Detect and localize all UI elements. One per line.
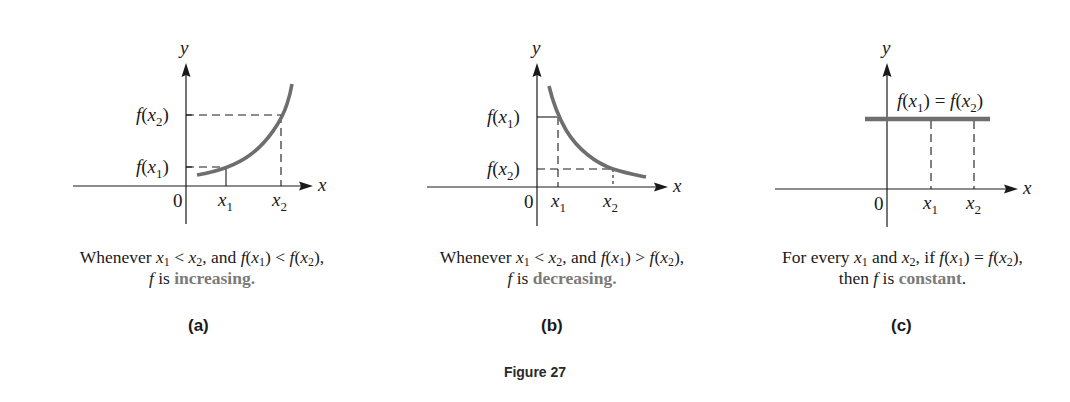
panel-a-y-arrow-icon bbox=[182, 63, 191, 77]
panel-b-caption-line2: f is decreasing. bbox=[382, 268, 742, 289]
panel-b-graph: y x 0 x1 x2 f(x1) f(x2) bbox=[427, 37, 682, 226]
panel-b-y-axis-label: y bbox=[530, 37, 541, 58]
panel-c-origin-label: 0 bbox=[874, 193, 884, 214]
panel-a-x2-label: x2 bbox=[271, 189, 287, 214]
panel-b-x-axis-label: x bbox=[672, 175, 682, 196]
panel-b-x2-label: x2 bbox=[602, 190, 618, 215]
keyword-increasing: increasing bbox=[174, 268, 251, 288]
panel-b-y-arrow-icon bbox=[533, 63, 542, 77]
panel-c-x-axis-label: x bbox=[1022, 177, 1032, 198]
panel-b-caption: Whenever x1 < x2, and f(x1) > f(x2), f i… bbox=[382, 247, 742, 289]
panel-c-caption-line2: then f is constant. bbox=[735, 268, 1070, 289]
panel-a-caption-line2: f is increasing. bbox=[22, 268, 382, 289]
keyword-constant: constant bbox=[899, 268, 962, 288]
panel-b-origin-label: 0 bbox=[524, 191, 534, 212]
panel-b-fx2-label: f(x2) bbox=[487, 158, 520, 183]
panel-b-decreasing-curve bbox=[549, 86, 646, 177]
panel-b-label: (b) bbox=[541, 316, 563, 336]
panel-a-x-arrow-icon bbox=[299, 182, 313, 191]
panel-c-x-arrow-icon bbox=[1004, 185, 1018, 194]
panel-c-label: (c) bbox=[891, 316, 912, 336]
keyword-decreasing: decreasing bbox=[533, 268, 612, 288]
panel-c-graph: y x 0 x1 x2 f(x1) = f(x2) bbox=[775, 37, 1032, 227]
panel-a-caption-line1: Whenever x1 < x2, and f(x1) < f(x2), bbox=[22, 247, 382, 268]
panel-c-equality-label: f(x1) = f(x2) bbox=[897, 90, 983, 115]
panel-a-fx2-label: f(x2) bbox=[136, 104, 169, 129]
panel-a-fx1-label: f(x1) bbox=[136, 156, 169, 181]
panel-b-x1-label: x1 bbox=[550, 190, 566, 215]
panel-a-x-axis-label: x bbox=[317, 174, 327, 195]
panel-a-x1-label: x1 bbox=[217, 189, 233, 214]
panel-c-x2-label: x2 bbox=[965, 192, 981, 217]
panel-c-x1-label: x1 bbox=[922, 192, 938, 217]
panel-a-origin-label: 0 bbox=[173, 190, 183, 211]
panel-c-y-axis-label: y bbox=[880, 37, 891, 58]
panel-b-fx1-label: f(x1) bbox=[487, 106, 520, 131]
panel-c-caption-line1: For every x1 and x2, if f(x1) = f(x2), bbox=[735, 247, 1070, 268]
panel-b-x-arrow-icon bbox=[654, 183, 668, 192]
panel-b-caption-line1: Whenever x1 < x2, and f(x1) > f(x2), bbox=[382, 247, 742, 268]
panel-c-y-arrow-icon bbox=[883, 63, 892, 77]
panel-a-label: (a) bbox=[188, 316, 209, 336]
panel-a-increasing-curve bbox=[197, 84, 292, 175]
figure-title: Figure 27 bbox=[0, 364, 1070, 380]
figure-canvas: y x 0 x1 x2 f(x2) f(x1) y x 0 x1 x2 f(x1… bbox=[0, 0, 1070, 402]
panel-a-caption: Whenever x1 < x2, and f(x1) < f(x2), f i… bbox=[22, 247, 382, 289]
panel-c-caption: For every x1 and x2, if f(x1) = f(x2), t… bbox=[735, 247, 1070, 289]
panel-a-y-axis-label: y bbox=[178, 37, 189, 58]
panel-a-graph: y x 0 x1 x2 f(x2) f(x1) bbox=[73, 37, 327, 224]
